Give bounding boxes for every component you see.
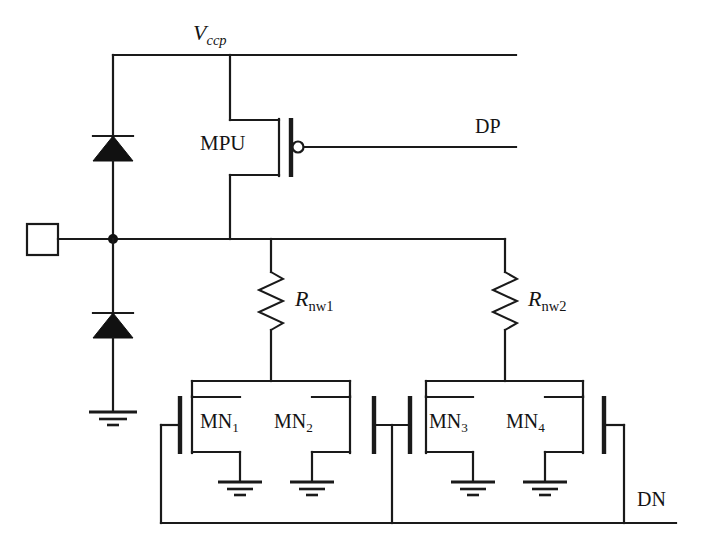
mn4-gate-wire <box>604 425 624 523</box>
ground-symbol-main <box>89 412 137 425</box>
label-vccp-subscript: ccp <box>206 32 226 48</box>
ground-symbol-mn1 <box>218 482 262 495</box>
diode-upper <box>93 136 133 238</box>
label-mn3: MN3 <box>429 411 468 431</box>
label-dn: DN <box>637 489 666 509</box>
nmos-mn4 <box>545 396 604 481</box>
center-node-bus <box>108 234 505 244</box>
label-rnw1-subscript: nw1 <box>308 298 333 314</box>
mn3-mn4-drain-tree <box>426 381 583 397</box>
label-mn1: MN1 <box>200 411 239 431</box>
nmos-mn3 <box>410 396 473 481</box>
circuit-schematic-drawing <box>0 0 702 551</box>
label-mn4: MN4 <box>506 411 545 431</box>
label-mn4-subscript: 4 <box>538 420 545 435</box>
diode-lower <box>93 239 133 411</box>
label-mpu: MPU <box>200 133 246 154</box>
mn1-gate-wire <box>161 425 180 523</box>
label-mn3-main: MN <box>429 410 461 432</box>
label-mn1-main: MN <box>200 410 232 432</box>
resistor-rnw1 <box>259 239 283 381</box>
label-vccp: Vccp <box>193 22 227 44</box>
resistor-rnw2 <box>493 239 517 381</box>
mn2-mn3-gate-wire <box>374 425 410 523</box>
nmos-mn2 <box>312 396 374 481</box>
ground-symbol-mn4 <box>523 482 567 495</box>
ground-symbol-mn3 <box>451 482 495 495</box>
label-rnw1-main: R <box>295 286 308 311</box>
label-rnw2: Rnw2 <box>528 288 566 310</box>
label-mn1-subscript: 1 <box>232 420 239 435</box>
label-rnw2-subscript: nw2 <box>541 298 566 314</box>
label-mn4-main: MN <box>506 410 538 432</box>
label-dp: DP <box>475 116 501 136</box>
io-pad-square <box>27 224 113 255</box>
label-mn2-main: MN <box>274 410 306 432</box>
label-rnw2-main: R <box>528 286 541 311</box>
label-mn2-subscript: 2 <box>306 420 313 435</box>
ground-symbol-mn2 <box>290 482 334 495</box>
schematic-canvas: Vccp MPU DP Rnw1 Rnw2 MN1 MN2 MN3 MN4 DN <box>0 0 702 551</box>
label-vccp-main: V <box>193 20 206 45</box>
label-mn3-subscript: 3 <box>461 420 468 435</box>
label-rnw1: Rnw1 <box>295 288 333 310</box>
nmos-mn1 <box>180 396 240 481</box>
label-mn2: MN2 <box>274 411 313 431</box>
mn1-mn2-drain-tree <box>192 381 350 397</box>
